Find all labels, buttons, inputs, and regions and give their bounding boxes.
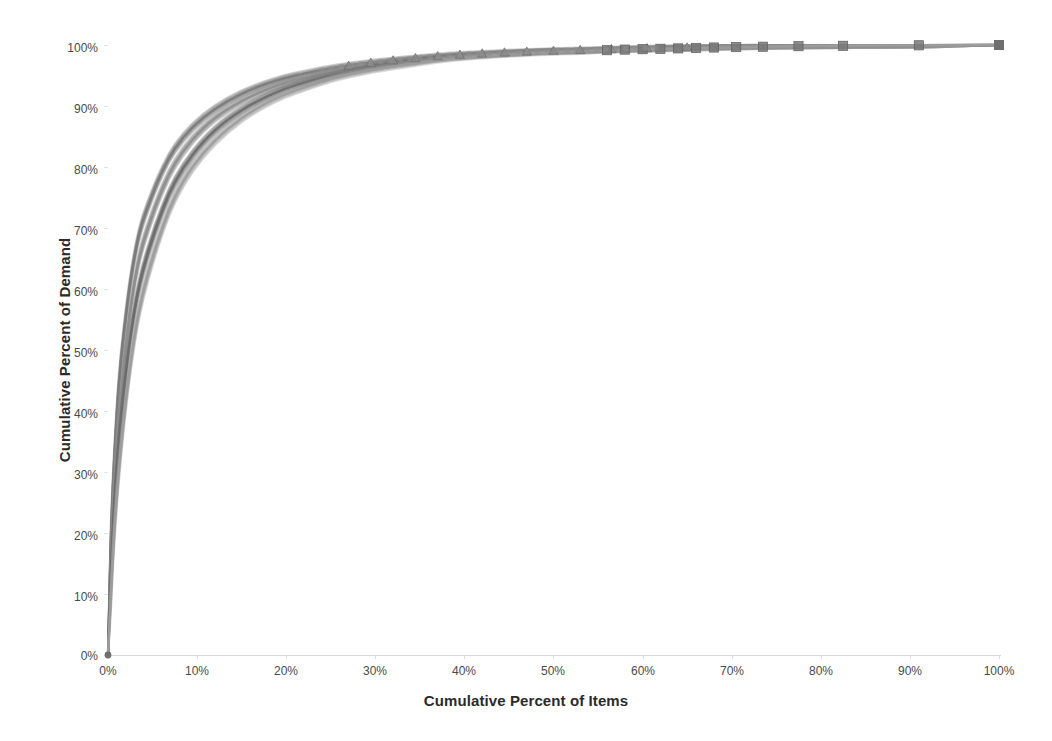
series-line-main [108,45,999,655]
series-line [108,45,999,655]
x-tick-label-90: 90% [880,664,940,678]
series-line [108,45,999,655]
series-line [108,45,999,655]
series-line [108,45,999,655]
series-line [108,45,999,655]
cluster-marker [319,68,324,73]
cluster-marker [525,49,530,54]
cluster-marker [515,49,520,54]
x-tick-label-0: 0% [78,664,138,678]
series-line [108,45,999,655]
cluster-marker [564,48,569,53]
series-line [108,45,999,655]
cluster-marker [653,45,658,50]
x-tick-label-100: 100% [969,664,1029,678]
x-tick-label-70: 70% [702,664,762,678]
x-tick-label-40: 40% [434,664,494,678]
cluster-marker [457,52,462,57]
cluster-marker [427,54,432,59]
x-axis-line [108,655,1001,656]
x-tick-label-50: 50% [523,664,583,678]
x-tick-mark [375,655,376,659]
cluster-marker [466,52,471,57]
series-canvas [108,45,999,655]
x-tick-mark [821,655,822,659]
series-line [108,45,999,655]
cluster-marker [329,66,334,71]
cluster-marker [437,53,442,58]
x-tick-label-60: 60% [613,664,673,678]
series-line [108,45,999,655]
series-line-main [108,45,999,655]
plot-area [108,45,999,655]
cluster-marker [358,61,363,66]
cluster-marker [407,56,412,61]
cluster-marker [476,51,481,56]
x-tick-label-10: 10% [167,664,227,678]
series-line [108,45,999,655]
square-marker [914,41,923,50]
series-line [108,45,999,655]
square-marker [692,43,701,52]
cluster-marker [506,50,511,55]
x-tick-mark [286,655,287,659]
x-tick-mark [910,655,911,659]
cluster-marker [417,55,422,60]
series-line [108,45,999,655]
x-tick-mark [732,655,733,659]
x-axis-title: Cumulative Percent of Items [0,692,1052,709]
cluster-marker [535,49,540,54]
square-marker [794,42,803,51]
series-line [108,45,999,655]
cluster-marker [368,60,373,65]
endpoint-marker [994,40,1004,50]
square-marker [732,43,741,52]
square-marker [839,41,848,50]
cluster-marker [633,46,638,51]
series-line [108,45,999,655]
cluster-marker [349,63,354,68]
cluster-marker [584,47,589,52]
square-marker [709,43,718,52]
cluster-marker [545,48,550,53]
series-line [108,45,999,655]
cluster-marker [574,47,579,52]
x-tick-mark [464,655,465,659]
x-tick-label-80: 80% [791,664,851,678]
cluster-marker [643,46,648,51]
cluster-marker [486,51,491,56]
series-line [108,45,999,655]
x-tick-mark [643,655,644,659]
x-tick-label-20: 20% [256,664,316,678]
series-line [108,45,999,655]
series-line [108,45,999,655]
x-tick-label-30: 30% [345,664,405,678]
series-line-main [108,45,999,655]
y-axis-title: Cumulative Percent of Demand [56,40,73,660]
series-line [108,45,999,655]
cluster-marker [613,46,618,51]
cluster-marker [398,57,403,62]
series-line [108,45,999,655]
series-line-main [108,45,999,655]
cluster-marker [604,47,609,52]
series-line [108,45,999,655]
series-line [108,45,999,655]
origin-marker [105,652,112,659]
series-line [108,45,999,655]
x-tick-mark [999,655,1000,659]
cluster-marker [339,64,344,69]
square-marker [758,42,767,51]
cluster-marker [594,47,599,52]
series-line [108,45,999,655]
x-tick-mark [553,655,554,659]
series-line [108,45,999,655]
square-marker [674,44,683,53]
series-line [108,45,999,655]
cluster-marker [555,48,560,53]
cumulative-demand-chart: 100% 90% 80% 70% 60% 50% 40% 30% 20% 10%… [0,0,1052,741]
cluster-marker [378,59,383,64]
series-line [108,45,999,655]
x-tick-mark [197,655,198,659]
series-line [108,45,999,655]
